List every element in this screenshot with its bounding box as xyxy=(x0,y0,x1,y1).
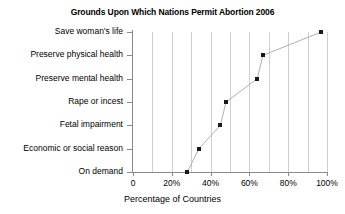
data-point-marker xyxy=(319,30,323,34)
x-axis-tick xyxy=(327,172,328,176)
data-point-marker xyxy=(224,100,228,104)
y-axis-tick xyxy=(127,79,133,80)
y-axis-tick xyxy=(127,55,133,56)
x-axis-tick xyxy=(288,172,289,176)
x-axis-tick xyxy=(133,172,134,176)
data-point-marker xyxy=(218,123,222,127)
y-axis-tick xyxy=(127,32,133,33)
y-axis-tick xyxy=(127,125,133,126)
data-point-marker xyxy=(197,147,201,151)
y-axis-tick-label: Fetal impairment xyxy=(60,120,123,129)
y-axis-tick-label: Economic or social reason xyxy=(23,144,123,153)
x-axis-tick-label: 40% xyxy=(202,178,219,188)
chart-figure: Grounds Upon Which Nations Permit Aborti… xyxy=(0,0,345,214)
y-axis-tick-label: Preserve physical health xyxy=(30,50,123,59)
y-axis-tick-label: Preserve mental health xyxy=(36,74,123,83)
x-axis-tick-label: 20% xyxy=(163,178,180,188)
x-axis-tick-label: 100% xyxy=(316,178,338,188)
y-axis-tick xyxy=(127,102,133,103)
data-point-marker xyxy=(261,53,265,57)
x-axis-tick-label: 0 xyxy=(131,178,136,188)
y-axis-tick-label: Rape or incest xyxy=(68,97,123,106)
x-axis-tick xyxy=(211,172,212,176)
y-axis-tick xyxy=(127,149,133,150)
x-axis-title: Percentage of Countries xyxy=(0,194,345,204)
y-axis-tick-label: On demand xyxy=(79,167,123,176)
x-axis-tick xyxy=(172,172,173,176)
x-axis-tick-label: 80% xyxy=(280,178,297,188)
x-axis-tick xyxy=(249,172,250,176)
data-point-marker xyxy=(255,77,259,81)
y-axis-tick-label: Save woman's life xyxy=(55,27,123,36)
data-point-marker xyxy=(185,170,189,174)
x-axis-tick-label: 60% xyxy=(241,178,258,188)
